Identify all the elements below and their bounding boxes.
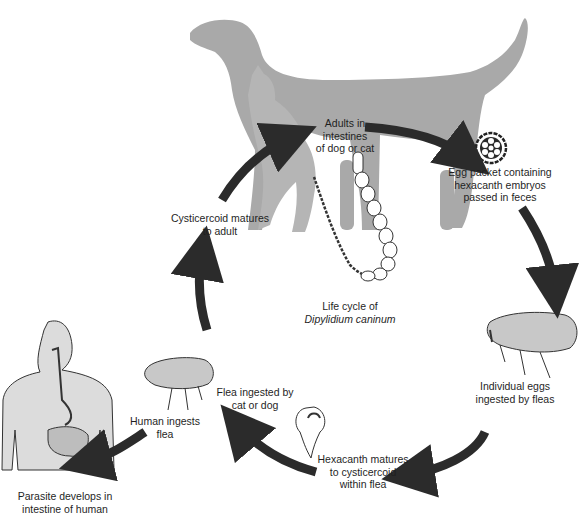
cysticercoid-icon [296,407,325,458]
stage-label-cysticercoid: Cysticercoid matures to adult [160,212,280,237]
egg-packet-icon [476,133,506,163]
stage-label-eggs-ingested: Individual eggs ingested by fleas [455,380,575,405]
diagram-title: Life cycle of Dipylidium caninum [285,300,415,325]
stage-label-egg-packet: Egg packet containing hexacanth embryos … [430,166,570,204]
stage-label-human-ingests: Human ingests flea [125,415,205,440]
arrow-flea-to-cysticercoid-up [199,252,207,330]
flea-left-icon [145,358,214,410]
stage-label-flea-ingested: Flea ingested by cat or dog [205,386,305,411]
arrow-egg-packet-to-flea [522,208,555,292]
stage-label-hexacanth: Hexacanth matures to cysticercoid within… [308,453,418,491]
life-cycle-artwork [0,0,588,523]
arrow-eggs-to-hexacanth [408,432,485,475]
adult-tapeworm [314,152,397,281]
stage-label-human-develops: Parasite develops in intestine of human [0,490,130,515]
stage-label-adults: Adults in intestines of dog or cat [305,117,385,155]
human-digestive-system-icon [2,321,114,470]
flea-right-icon [487,312,577,378]
